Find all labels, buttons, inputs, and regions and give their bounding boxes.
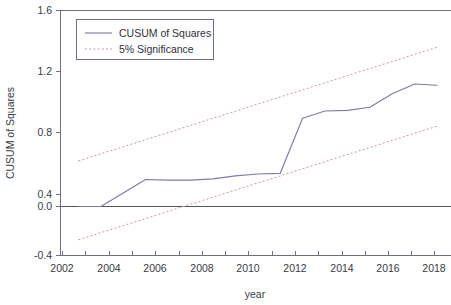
y-tick-label: 1.2: [37, 65, 52, 77]
x-axis-title: year: [245, 288, 266, 300]
chart-canvas: 1.6 1.2 0.8 0.4 0.0 -0.4: [0, 0, 451, 305]
significance-lower-line: [78, 126, 437, 240]
x-tick-label: 2004: [97, 262, 121, 274]
legend-entry-label: CUSUM of Squares: [119, 27, 211, 39]
x-axis-ticks: [63, 251, 435, 256]
y-tick-label: 1.6: [37, 4, 52, 16]
data-series-group: [78, 47, 437, 240]
x-axis-tick-labels: 2002 2004 2006 2008 2010 2012 2014 2016 …: [50, 262, 446, 274]
y-tick-label: 0.4: [37, 188, 52, 200]
x-tick-label: 2016: [376, 262, 400, 274]
x-tick-label: 2018: [422, 262, 446, 274]
y-axis-title: CUSUM of Squares: [4, 87, 16, 179]
y-axis-tick-labels: 1.6 1.2 0.8 0.4 0.0 -0.4: [34, 4, 52, 261]
x-tick-label: 2012: [283, 262, 307, 274]
y-tick-label: 0.8: [37, 126, 52, 138]
y-axis-ticks: [56, 11, 61, 256]
y-tick-label: 0.0: [37, 200, 52, 212]
chart-legend: CUSUM of Squares 5% Significance: [77, 20, 214, 60]
cusum-of-squares-chart: 1.6 1.2 0.8 0.4 0.0 -0.4: [0, 0, 451, 305]
x-tick-label: 2014: [330, 262, 354, 274]
legend-entry-label: 5% Significance: [119, 43, 194, 55]
x-tick-label: 2010: [236, 262, 260, 274]
x-tick-label: 2006: [143, 262, 167, 274]
x-tick-label: 2002: [50, 262, 74, 274]
y-tick-label: -0.4: [34, 249, 52, 261]
significance-upper-line: [78, 47, 437, 161]
x-tick-label: 2008: [190, 262, 214, 274]
cusum-of-squares-line: [78, 84, 437, 207]
